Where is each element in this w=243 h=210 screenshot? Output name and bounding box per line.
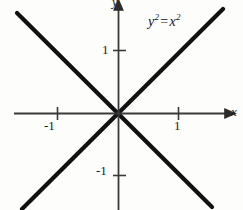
y-tick-label-negative-1: -1 <box>96 163 107 179</box>
y-tick-label-positive-1: 1 <box>102 42 109 58</box>
curve-y-equals-negative-x <box>17 13 212 207</box>
x-axis-label: x <box>231 104 237 120</box>
equation-operator: = <box>159 14 169 29</box>
equation-rhs-exponent: 2 <box>176 12 181 22</box>
x-tick-label-positive-1: 1 <box>174 118 181 134</box>
plot-canvas <box>0 0 243 210</box>
x-tick-label-negative-1: -1 <box>44 118 55 134</box>
y-axis-label: y <box>112 0 118 10</box>
curve-y-equals-x <box>22 9 223 209</box>
equation-annotation: y2=x2 <box>148 14 181 30</box>
graph-figure: y2=x2 y x 1 -1 1 -1 <box>0 0 243 210</box>
